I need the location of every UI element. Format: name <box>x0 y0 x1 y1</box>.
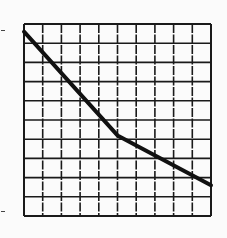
line-chart <box>0 0 227 238</box>
left-tick-mark-bottom <box>1 211 5 212</box>
left-tick-mark-top <box>1 30 5 31</box>
chart-grid <box>24 24 211 216</box>
